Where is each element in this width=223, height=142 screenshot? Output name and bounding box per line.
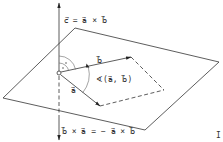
label-angle: ∢(a⃗, b⃗) — [96, 74, 132, 84]
parallelogram-edge-2 — [100, 90, 164, 106]
label-vector-a: a⃗ — [71, 86, 76, 95]
label-anticommutative: b⃗ × a⃗ = − a⃗ × b⃗ — [61, 126, 135, 136]
right-angle-dot-1 — [62, 67, 63, 68]
corner-mark: I — [216, 131, 221, 140]
label-c-equation: c⃗ = a⃗ × b⃗ — [64, 15, 107, 25]
vector-a — [61, 75, 100, 106]
angle-arc-ab — [83, 67, 90, 93]
cross-product-diagram: c⃗ = a⃗ × b⃗ b⃗ a⃗ ∢(a⃗, b⃗) b⃗ × a⃗ = −… — [0, 0, 223, 142]
parallelogram-edge-1 — [131, 57, 164, 90]
label-vector-b: b⃗ — [96, 55, 102, 65]
vector-b — [61, 57, 131, 72]
right-angle-dot-2 — [65, 62, 66, 63]
right-angle-arc-small — [59, 63, 69, 71]
origin-point — [57, 71, 61, 75]
angle-arc-arrow — [86, 64, 90, 68]
